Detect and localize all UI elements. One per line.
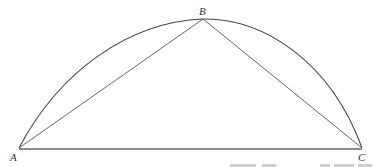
segment-ab <box>19 19 203 148</box>
label-a: A <box>9 151 17 163</box>
cut-off-text-fragment <box>230 164 372 167</box>
arc-abc <box>19 19 362 148</box>
label-c: C <box>358 151 366 163</box>
label-b: B <box>199 5 206 17</box>
segment-bc <box>203 19 362 148</box>
geometry-diagram: A B C <box>0 0 374 167</box>
